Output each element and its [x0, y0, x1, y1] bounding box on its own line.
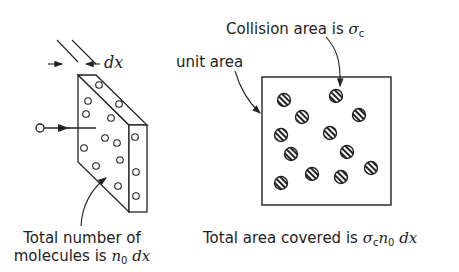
right-caption-prefix: Total area covered is [203, 229, 363, 247]
right-caption: Total area covered is σcn0 dx [203, 229, 417, 252]
thickness-label-text: dx [104, 53, 123, 72]
collision-area-label: Collision area is σc [226, 20, 364, 43]
left-caption-prefix: molecules is [14, 247, 112, 265]
left-caption-dx: dx [127, 247, 150, 265]
left-caption-line2: molecules is n0 dx [0, 247, 164, 270]
collision-label-prefix: Collision area is [226, 20, 349, 38]
right-caption-n: n [378, 229, 388, 247]
unit-area-label-text: unit area [176, 53, 243, 71]
thickness-dimension [48, 40, 100, 64]
unit-area-leader [235, 71, 260, 113]
thickness-label: dx [104, 54, 123, 72]
collision-sigma-sub: c [359, 28, 365, 39]
unit-area-label: unit area [176, 53, 243, 71]
collision-sigma: σ [349, 20, 359, 38]
right-caption-sigma: σ [363, 229, 373, 247]
left-caption: Total number of molecules is n0 dx [0, 229, 164, 270]
slab [78, 75, 147, 212]
incoming-molecule-circle [36, 124, 44, 132]
right-caption-dx: dx [394, 229, 417, 247]
left-caption-line1: Total number of [0, 229, 164, 247]
left-caption-n: n [111, 247, 121, 265]
arrow-icon [58, 124, 69, 132]
